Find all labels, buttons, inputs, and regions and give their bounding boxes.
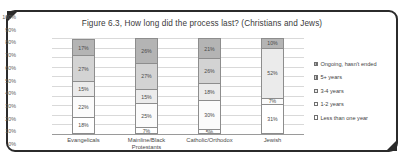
bar-segment: 7% — [135, 127, 158, 134]
legend-item-label: 3-4 years — [320, 88, 343, 94]
chart-legend: Ongoing, hasn't ended5+ years3-4 years1-… — [314, 61, 400, 128]
legend-swatch-icon — [314, 75, 318, 79]
bar-column: 7%25%15%27%26% — [135, 38, 158, 134]
bar-segment-label: 15% — [141, 94, 151, 100]
bar-segment: 27% — [72, 55, 95, 81]
bar-segment: 17% — [72, 39, 95, 55]
legend-item[interactable]: 3-4 years — [314, 88, 400, 94]
x-axis-category-label: Mainline/BlackProtestants — [115, 137, 178, 151]
bar-segment: 21% — [198, 38, 221, 58]
bar-segment-label: 30% — [204, 112, 214, 118]
x-axis-category-line: Evangelicals — [52, 137, 115, 144]
bar-segment: 18% — [198, 83, 221, 100]
legend-item-label: Ongoing, hasn't ended — [320, 61, 376, 67]
bar-series-group: 18%22%15%27%17%7%25%15%27%26%5%30%18%26%… — [52, 38, 304, 134]
legend-swatch-icon — [314, 102, 318, 106]
x-axis-category-line: Jewish — [241, 137, 304, 144]
legend-item[interactable]: Less than one year — [314, 115, 400, 121]
bar-segment-label: 52% — [267, 70, 277, 76]
x-axis-category-label: Catholic/Orthodox — [178, 137, 241, 144]
bar-segment-label: 21% — [204, 46, 214, 52]
x-axis-category-line: Mainline/Black — [115, 137, 178, 144]
bar-segment: 25% — [135, 103, 158, 127]
bar-segment-label: 18% — [204, 89, 214, 95]
bar-column: 5%30%18%26%21% — [198, 38, 221, 134]
bar-segment-label: 22% — [78, 104, 88, 110]
legend-item[interactable]: Ongoing, hasn't ended — [314, 61, 400, 67]
y-axis-tick-label: 60% — [5, 65, 16, 71]
x-axis-category-line: Catholic/Orthodox — [178, 137, 241, 144]
chart-container: Figure 6.3, How long did the process las… — [18, 17, 386, 144]
y-axis-tick-label: 40% — [5, 90, 16, 96]
y-axis-tick-label: 30% — [5, 103, 16, 109]
x-axis-category-label: Evangelicals — [52, 137, 115, 144]
x-axis-category-label: Jewish — [241, 137, 304, 144]
bar-column: 31%7%52%10% — [261, 38, 284, 134]
legend-item-label: Less than one year — [320, 115, 368, 121]
bar-segment: 18% — [72, 117, 95, 134]
bar-segment: 52% — [261, 48, 284, 98]
bar-segment-label: 17% — [78, 45, 88, 51]
stacked-bar: 7%25%15%27%26% — [135, 38, 158, 134]
bar-segment-label: 26% — [141, 48, 151, 54]
y-axis-tick-label: 80% — [5, 39, 16, 45]
bar-segment: 15% — [72, 81, 95, 95]
bar-segment-label: 25% — [141, 113, 151, 119]
bar-segment: 30% — [198, 100, 221, 129]
y-axis-tick-label: 20% — [5, 116, 16, 122]
bar-segment: 10% — [261, 38, 284, 48]
bar-segment: 7% — [261, 98, 284, 105]
bar-segment-label: 18% — [78, 122, 88, 128]
bar-segment-label: 27% — [141, 73, 151, 79]
y-axis-tick-label: 50% — [5, 78, 16, 84]
bar-segment-label: 10% — [267, 40, 277, 46]
figure-frame: Figure 6.3, How long did the process las… — [6, 10, 398, 152]
chart-title: Figure 6.3, How long did the process las… — [18, 19, 386, 28]
bar-segment: 26% — [135, 38, 158, 63]
x-axis-category-line: Protestants — [115, 144, 178, 151]
y-axis-tick-label: 90% — [5, 27, 16, 33]
legend-swatch-icon — [314, 89, 318, 93]
y-axis-tick-label: 10% — [5, 128, 16, 134]
stacked-bar: 31%7%52%10% — [261, 38, 284, 134]
y-axis-tick-label: 100% — [2, 14, 16, 20]
bar-segment: 27% — [135, 63, 158, 89]
bar-segment: 15% — [135, 89, 158, 103]
legend-swatch-icon — [314, 62, 318, 66]
bar-segment-label: 27% — [78, 66, 88, 72]
bar-segment: 26% — [198, 58, 221, 83]
legend-item-label: 5+ years — [320, 74, 342, 80]
bar-segment-label: 7% — [143, 128, 151, 134]
bar-segment: 22% — [72, 96, 95, 117]
legend-item-label: 1-2 years — [320, 101, 343, 107]
y-axis: 100%90%80%70%60%50%40%30%20%10%0% — [0, 17, 16, 144]
legend-item[interactable]: 1-2 years — [314, 101, 400, 107]
bar-segment-label: 15% — [78, 86, 88, 92]
plot-area: 18%22%15%27%17%7%25%15%27%26%5%30%18%26%… — [52, 38, 304, 134]
y-axis-tick-label: 0% — [8, 141, 16, 147]
bar-column: 18%22%15%27%17% — [72, 38, 95, 134]
frame-corner-bottom-right — [386, 140, 397, 151]
bar-segment: 31% — [261, 104, 284, 134]
bar-segment-label: 26% — [204, 68, 214, 74]
bar-segment-label: 5% — [206, 129, 214, 134]
stacked-bar: 18%22%15%27%17% — [72, 38, 95, 134]
legend-swatch-icon — [314, 115, 318, 119]
axis-baseline — [52, 134, 304, 135]
bar-segment-label: 31% — [267, 116, 277, 122]
y-axis-tick-label: 70% — [5, 52, 16, 58]
legend-item[interactable]: 5+ years — [314, 74, 400, 80]
bar-segment: 5% — [198, 129, 221, 134]
stacked-bar: 5%30%18%26%21% — [198, 38, 221, 134]
